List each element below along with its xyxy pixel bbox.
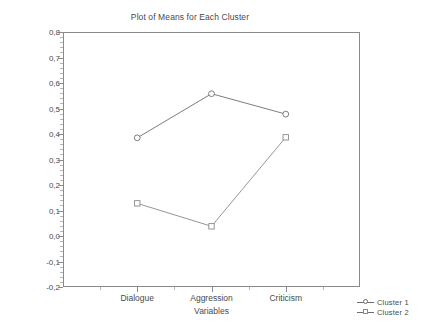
y-axis-minor-tick — [60, 195, 63, 196]
chart-legend: Cluster 1 Cluster 2 — [357, 297, 409, 317]
y-axis-tick-mark — [58, 262, 63, 263]
y-axis-tick-mark — [58, 109, 63, 110]
legend-label: Cluster 2 — [377, 308, 409, 317]
legend-item-cluster-1[interactable]: Cluster 1 — [357, 297, 409, 307]
y-axis-minor-tick — [60, 88, 63, 89]
x-axis-tick-mark — [137, 287, 138, 292]
y-axis-tick-label: 0,6 — [14, 79, 60, 88]
y-axis-minor-tick — [60, 98, 63, 99]
y-axis-tick-mark — [58, 211, 63, 212]
circle-marker-icon — [357, 298, 374, 307]
y-axis-tick-label: -0,2 — [14, 283, 60, 292]
y-axis-minor-tick — [60, 216, 63, 217]
y-axis-tick-label: 0,3 — [14, 155, 60, 164]
y-axis-minor-tick — [60, 63, 63, 64]
y-axis-minor-tick — [60, 42, 63, 43]
x-axis-minor-tick — [100, 287, 101, 290]
y-axis-tick-label: 0,7 — [14, 53, 60, 62]
x-axis-tick-mark — [286, 287, 287, 292]
y-axis-minor-tick — [60, 149, 63, 150]
y-axis-minor-tick — [60, 154, 63, 155]
y-axis-minor-tick — [60, 200, 63, 201]
y-axis-tick-label: 0,0 — [14, 232, 60, 241]
y-axis-minor-tick — [60, 256, 63, 257]
y-axis-tick-label: 0,8 — [14, 28, 60, 37]
legend-item-cluster-2[interactable]: Cluster 2 — [357, 307, 409, 317]
y-axis-minor-tick — [60, 37, 63, 38]
x-axis-title: Variables — [63, 306, 360, 316]
y-axis-minor-tick — [60, 78, 63, 79]
y-axis-minor-tick — [60, 267, 63, 268]
chart-title: Plot of Means for Each Cluster — [0, 12, 380, 22]
y-axis-tick-mark — [58, 32, 63, 33]
y-axis-tick-mark — [58, 83, 63, 84]
y-axis-minor-tick — [60, 180, 63, 181]
y-axis-minor-tick — [60, 170, 63, 171]
square-marker-icon — [357, 308, 374, 317]
y-axis-tick-label: 0,5 — [14, 104, 60, 113]
y-axis-minor-tick — [60, 119, 63, 120]
y-axis-tick-mark — [58, 134, 63, 135]
y-axis-tick-mark — [58, 185, 63, 186]
y-axis-tick-label: -0,1 — [14, 257, 60, 266]
y-axis-tick-label: 0,2 — [14, 181, 60, 190]
y-axis-minor-tick — [60, 124, 63, 125]
x-axis-tick-label: Dialogue — [120, 293, 154, 303]
y-axis-minor-tick — [60, 52, 63, 53]
y-axis-minor-tick — [60, 205, 63, 206]
y-axis-minor-tick — [60, 277, 63, 278]
y-axis-minor-tick — [60, 282, 63, 283]
y-axis-tick-mark — [58, 58, 63, 59]
y-axis-tick-mark — [58, 160, 63, 161]
y-axis-tick-label: 0,4 — [14, 130, 60, 139]
x-axis-tick-label: Aggression — [190, 293, 233, 303]
y-axis-minor-tick — [60, 190, 63, 191]
y-axis-minor-tick — [60, 272, 63, 273]
y-axis-minor-tick — [60, 103, 63, 104]
legend-label: Cluster 1 — [377, 298, 409, 307]
x-axis-minor-tick — [323, 287, 324, 290]
y-axis-minor-tick — [60, 114, 63, 115]
x-axis-tick-mark — [212, 287, 213, 292]
y-axis-minor-tick — [60, 129, 63, 130]
y-axis-minor-tick — [60, 93, 63, 94]
y-axis-minor-tick — [60, 175, 63, 176]
y-axis-minor-tick — [60, 246, 63, 247]
y-axis-minor-tick — [60, 226, 63, 227]
y-axis-tick-mark — [58, 287, 63, 288]
y-axis-minor-tick — [60, 144, 63, 145]
y-axis-minor-tick — [60, 139, 63, 140]
y-axis-minor-tick — [60, 251, 63, 252]
plot-area — [63, 32, 360, 287]
x-axis-tick-label: Criticism — [269, 293, 302, 303]
y-axis-minor-tick — [60, 165, 63, 166]
y-axis-minor-tick — [60, 73, 63, 74]
chart-page: Plot of Means for Each Cluster Variables… — [0, 0, 428, 334]
x-axis-minor-tick — [249, 287, 250, 290]
y-axis-minor-tick — [60, 47, 63, 48]
y-axis-tick-label: 0,1 — [14, 206, 60, 215]
y-axis-minor-tick — [60, 221, 63, 222]
y-axis-minor-tick — [60, 241, 63, 242]
x-axis-minor-tick — [174, 287, 175, 290]
y-axis-tick-mark — [58, 236, 63, 237]
y-axis-minor-tick — [60, 231, 63, 232]
y-axis-minor-tick — [60, 68, 63, 69]
